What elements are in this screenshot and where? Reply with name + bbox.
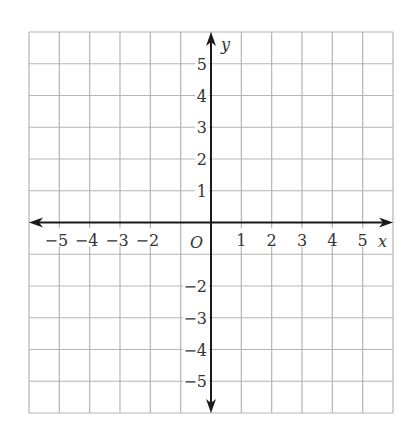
y-tick-label: −3 [183, 309, 207, 328]
origin-label: O [190, 233, 203, 252]
y-tick-label: 2 [197, 150, 207, 169]
x-tick-label: 4 [327, 231, 337, 250]
x-tick-label: 5 [358, 231, 368, 250]
x-tick-label: −5 [45, 231, 69, 250]
y-tick-label: −2 [183, 277, 207, 296]
y-axis-label: y [220, 35, 231, 54]
x-tick-label: −3 [105, 231, 129, 250]
x-tick-label: 3 [297, 231, 307, 250]
tick-labels: −5−4−3−21234554321−2−3−4−5 [43, 34, 386, 391]
x-tick-label: −2 [136, 231, 160, 250]
x-tick-label: 1 [236, 231, 246, 250]
x-tick-label: −4 [75, 231, 99, 250]
x-axis-label: x [378, 232, 387, 251]
y-tick-label: 1 [197, 182, 207, 201]
y-tick-label: 5 [197, 55, 207, 74]
coordinate-plane: −5−4−3−21234554321−2−3−4−5 Oxy [0, 0, 409, 429]
axes [29, 32, 393, 413]
y-tick-label: −4 [183, 341, 207, 360]
y-tick-label: 3 [197, 118, 207, 137]
x-tick-label: 2 [267, 231, 277, 250]
y-tick-label: −5 [183, 372, 207, 391]
y-tick-label: 4 [197, 87, 207, 106]
